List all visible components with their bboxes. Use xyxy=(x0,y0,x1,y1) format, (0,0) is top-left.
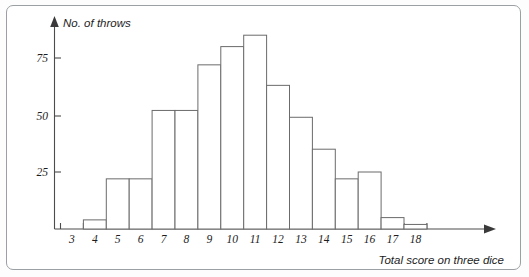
y-tick-label-50: 50 xyxy=(37,110,49,122)
bars-group xyxy=(83,35,427,229)
bar-9 xyxy=(198,65,221,229)
x-axis-arrow-icon xyxy=(484,225,496,234)
x-tick-label-16: 16 xyxy=(364,233,376,245)
bar-7 xyxy=(152,110,175,229)
bar-13 xyxy=(290,117,313,229)
bar-14 xyxy=(312,149,335,229)
x-tick-label-14: 14 xyxy=(318,233,330,245)
y-axis-title: No. of throws xyxy=(63,17,131,29)
x-tick-label-13: 13 xyxy=(295,233,307,245)
x-tick-label-17: 17 xyxy=(387,233,400,245)
x-tick-label-5: 5 xyxy=(115,233,121,245)
bar-12 xyxy=(267,85,290,229)
x-tick-label-10: 10 xyxy=(226,233,238,245)
x-tick-label-11: 11 xyxy=(250,233,261,245)
bar-10 xyxy=(221,47,244,229)
x-axis-title: Total score on three dice xyxy=(378,254,504,266)
y-tick-label-25: 25 xyxy=(37,166,49,178)
x-tick-label-18: 18 xyxy=(410,233,422,245)
bar-8 xyxy=(175,110,198,229)
bar-6 xyxy=(129,179,152,229)
bar-15 xyxy=(335,179,358,229)
bar-17 xyxy=(381,218,404,229)
x-tick-label-3: 3 xyxy=(68,233,75,245)
histogram-svg: 75 50 25 No. of throws xyxy=(0,0,529,277)
figure-root: 75 50 25 No. of throws xyxy=(0,0,529,277)
histogram-plot: 75 50 25 No. of throws xyxy=(0,0,529,277)
x-tick-label-7: 7 xyxy=(161,233,168,245)
bar-4 xyxy=(83,220,106,229)
x-tick-label-15: 15 xyxy=(341,233,353,245)
x-tick-label-4: 4 xyxy=(92,233,98,245)
x-tick-label-12: 12 xyxy=(272,233,284,245)
x-tick-label-6: 6 xyxy=(138,233,144,245)
y-tick-label-75: 75 xyxy=(37,52,49,64)
y-axis xyxy=(50,16,59,229)
x-tick-label-9: 9 xyxy=(206,233,212,245)
bar-5 xyxy=(106,179,129,229)
bar-16 xyxy=(358,172,381,229)
y-tick-marks xyxy=(55,58,62,172)
x-tick-label-8: 8 xyxy=(184,233,190,245)
y-axis-arrow-icon xyxy=(50,16,59,27)
bar-18 xyxy=(404,224,427,229)
bar-11 xyxy=(244,35,267,229)
